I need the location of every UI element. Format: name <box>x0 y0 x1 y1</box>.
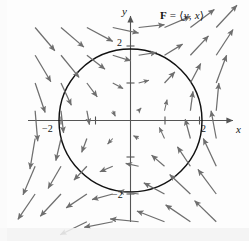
vector-field-canvas <box>0 0 249 241</box>
field-arrow <box>126 163 139 166</box>
field-arrow <box>61 83 71 105</box>
field-arrow <box>177 147 190 166</box>
field-arrow <box>108 139 113 145</box>
y-axis-label: y <box>122 6 127 17</box>
scan-artifact-left <box>0 0 7 241</box>
field-arrow <box>87 28 113 42</box>
field-arrow <box>165 100 168 111</box>
field-label-close-bracket: ⟩ <box>200 9 205 21</box>
tick-label-x-positive-2: 2 <box>201 124 206 134</box>
field-arrow <box>82 139 87 153</box>
field-arrow <box>92 194 113 200</box>
field-arrow <box>216 83 219 111</box>
vector-field-figure: F = ⟨y, x⟩ y x 2 −2 2 −2 <box>0 0 249 241</box>
field-arrow <box>35 111 38 142</box>
field-arrow <box>170 175 191 194</box>
field-arrow <box>113 28 139 34</box>
tick-label-y-positive-2: 2 <box>117 38 122 48</box>
tick-label-y-negative-2: −2 <box>112 190 123 200</box>
field-arrow <box>190 64 200 83</box>
field-arrow <box>84 222 112 228</box>
field-arrow <box>87 111 90 125</box>
field-arrow <box>216 5 237 27</box>
field-arrow <box>216 29 233 55</box>
field-arrow <box>159 127 164 138</box>
field-arrow <box>195 201 217 222</box>
field-arrow <box>113 55 131 61</box>
field-arrow <box>133 136 138 139</box>
field-arrow <box>56 139 61 161</box>
field-arrow <box>100 166 113 172</box>
scan-artifact-bottom <box>0 228 249 241</box>
field-arrow <box>152 155 165 166</box>
field-arrow <box>61 28 84 48</box>
field-arrow <box>139 25 165 28</box>
field-label-bold-f: F <box>160 9 167 21</box>
field-arrow <box>185 119 190 138</box>
field-equation-label: F = ⟨y, x⟩ <box>160 10 204 21</box>
x-axis-label: x <box>236 124 241 135</box>
field-arrow <box>190 36 208 55</box>
field-arrow <box>211 111 216 139</box>
field-arrow <box>139 108 142 111</box>
field-arrow <box>18 194 35 219</box>
field-arrow <box>198 169 216 194</box>
field-arrow <box>113 111 116 117</box>
field-arrow <box>165 44 183 55</box>
field-arrow <box>35 83 45 113</box>
field-arrow <box>139 52 157 55</box>
field-arrow <box>74 166 87 180</box>
field-arrow <box>137 211 165 222</box>
field-arrow <box>23 166 35 195</box>
field-arrow <box>190 91 193 110</box>
field-arrow <box>61 55 79 77</box>
field-arrow <box>203 139 216 167</box>
field-arrow <box>30 139 35 170</box>
field-arrow <box>166 205 191 222</box>
tick-label-x-negative-2: −2 <box>42 124 53 134</box>
field-arrow <box>35 28 55 51</box>
field-arrow <box>139 80 149 83</box>
field-label-equals: = <box>167 9 179 21</box>
field-arrow <box>110 219 138 222</box>
field-arrow <box>87 83 97 97</box>
field-arrow <box>35 55 51 82</box>
field-arrow <box>113 83 123 89</box>
field-arrow <box>48 166 61 188</box>
field-arrow <box>40 194 61 216</box>
field-arrow <box>216 55 226 83</box>
field-arrow <box>66 194 87 208</box>
field-arrow <box>165 72 175 83</box>
